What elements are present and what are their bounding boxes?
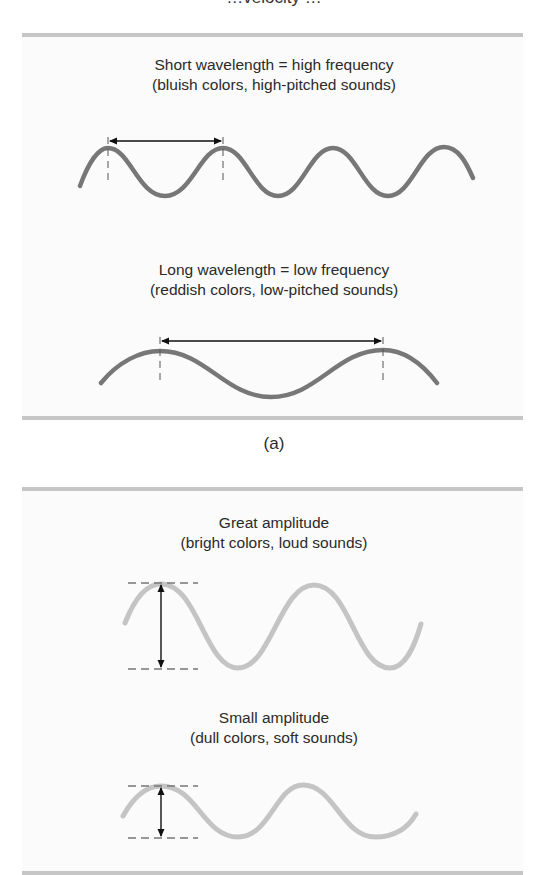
long-wavelength-wave — [101, 350, 437, 397]
small-amplitude-wave — [123, 785, 416, 837]
short-wavelength-wave — [80, 147, 473, 196]
great-amplitude-wave — [125, 584, 421, 668]
wave-diagram — [0, 0, 548, 875]
